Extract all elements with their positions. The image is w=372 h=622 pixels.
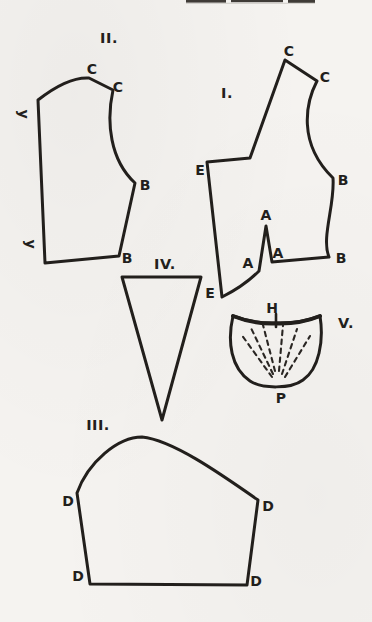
piece-iii-point-d-lower-right: D (250, 573, 262, 589)
dashed-line (279, 325, 283, 371)
piece-v-fan-dashed-lines (241, 325, 310, 377)
scanned-page: II. C C B B y y I. C C E B A A A B E IV. (0, 0, 372, 622)
piece-i-point-c2: C (320, 69, 330, 85)
piece-i-point-a-apex: A (261, 207, 272, 223)
piece-v-numeral: V. (338, 315, 354, 331)
piece-iv-outline (122, 277, 201, 420)
pattern-piece-v: V. H P (230, 300, 354, 406)
piece-ii-point-c2: C (113, 79, 123, 95)
piece-ii-point-y2: y (23, 239, 39, 248)
piece-ii-outline (38, 78, 135, 263)
piece-i-point-b1: B (338, 172, 349, 188)
piece-ii-point-b1: B (140, 177, 151, 193)
piece-iii-point-d-lower-left: D (72, 568, 84, 584)
pattern-diagram: II. C C B B y y I. C C E B A A A B E IV. (0, 0, 372, 622)
pattern-piece-iii: III. D D D D (62, 417, 274, 589)
piece-iii-outline (77, 437, 258, 585)
piece-iii-point-d-upper-left: D (62, 493, 74, 509)
piece-ii-point-y1: y (16, 109, 32, 118)
pattern-piece-iv: IV. (122, 256, 201, 420)
piece-iii-numeral: III. (86, 417, 110, 433)
piece-i-point-a-right: A (273, 245, 284, 261)
piece-iv-numeral: IV. (154, 256, 176, 272)
remnant-mark (186, 3, 315, 4)
pattern-piece-ii: II. C C B B y y (16, 30, 150, 266)
dashed-line (282, 329, 297, 374)
piece-i-numeral: I. (221, 85, 233, 101)
piece-ii-numeral: II. (100, 30, 118, 46)
piece-ii-point-b2: B (122, 250, 133, 266)
piece-i-point-c1: C (284, 43, 294, 59)
piece-v-point-p: P (276, 390, 286, 406)
cropped-text-remnant (186, 0, 315, 4)
piece-i-point-e2: E (205, 285, 215, 301)
piece-ii-point-c1: C (87, 61, 97, 77)
piece-i-point-a-left: A (243, 255, 254, 271)
piece-v-point-h: H (266, 300, 278, 316)
remnant-mark (231, 0, 283, 2)
piece-i-point-b2: B (336, 250, 347, 266)
remnant-mark (288, 0, 315, 3)
piece-i-point-e1: E (195, 162, 205, 178)
pattern-piece-i: I. C C E B A A A B E (195, 43, 348, 301)
piece-iii-point-d-upper-right: D (262, 498, 274, 514)
remnant-mark (186, 0, 226, 3)
